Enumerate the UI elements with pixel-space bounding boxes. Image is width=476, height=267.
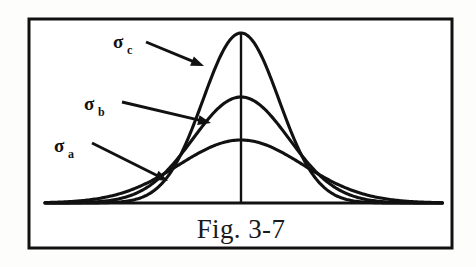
sigma-c-symbol: σ xyxy=(113,31,124,52)
sigma-a-symbol: σ xyxy=(54,135,65,156)
sigma-b-subscript: b xyxy=(98,105,105,119)
sigma-b-symbol: σ xyxy=(84,93,95,114)
gaussian-curves-figure: σ c σ b σ a Fig. 3-7 xyxy=(0,0,476,267)
figure-container: σ c σ b σ a Fig. 3-7 xyxy=(0,0,476,267)
figure-caption: Fig. 3-7 xyxy=(197,214,286,244)
sigma-c-subscript: c xyxy=(127,43,133,57)
sigma-a-subscript: a xyxy=(68,147,74,161)
